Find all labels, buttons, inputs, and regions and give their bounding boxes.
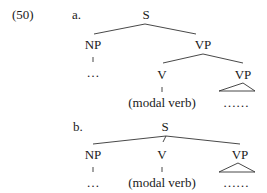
tree-a-label: a. — [72, 8, 81, 21]
tree-b-np-ellipsis: … — [87, 176, 100, 189]
tree-b-vp: VP — [232, 148, 249, 161]
tree-a-vp: VP — [195, 38, 212, 51]
tree-a-modal-verb: (modal verb) — [128, 96, 196, 109]
tree-a-root-s: S — [142, 8, 149, 21]
tree-a-np-ellipsis: … — [87, 66, 100, 79]
example-number: (50) — [12, 8, 34, 21]
tree-b-label: b. — [73, 120, 83, 133]
tree-b-v: V — [157, 148, 166, 161]
tree-a-np: NP — [85, 38, 102, 51]
tree-b-root-s: S — [161, 120, 168, 133]
tree-a-vp2: VP — [235, 68, 252, 81]
tree-a-v: V — [157, 68, 166, 81]
tree-b-vp-ellipsis: …… — [223, 176, 249, 189]
tree-a-vp2-ellipsis: …… — [223, 96, 249, 109]
tree-b-np: NP — [85, 148, 102, 161]
tree-b-modal-verb: (modal verb) — [128, 176, 196, 189]
